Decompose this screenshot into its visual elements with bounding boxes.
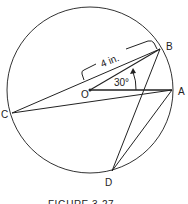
chord-ca <box>12 90 172 113</box>
angle-label: 30° <box>114 77 129 88</box>
label-b: B <box>166 41 173 52</box>
chord-cb <box>12 49 160 113</box>
dimension-bracket-right <box>126 41 157 49</box>
label-c: C <box>1 109 8 120</box>
label-a: A <box>178 86 185 97</box>
figure-caption: FIGURE 3-27 <box>48 199 114 204</box>
point-o <box>89 89 92 92</box>
label-d: D <box>105 177 112 188</box>
angle-arrow-icon <box>130 68 136 74</box>
label-o: O <box>81 89 89 100</box>
angle-arc <box>133 72 136 90</box>
radius-label: 4 in. <box>99 52 121 69</box>
circle-geometry-diagram: 4 in. 30° O A B C D FIGURE 3-27 <box>0 0 188 204</box>
chord-db <box>112 49 160 171</box>
